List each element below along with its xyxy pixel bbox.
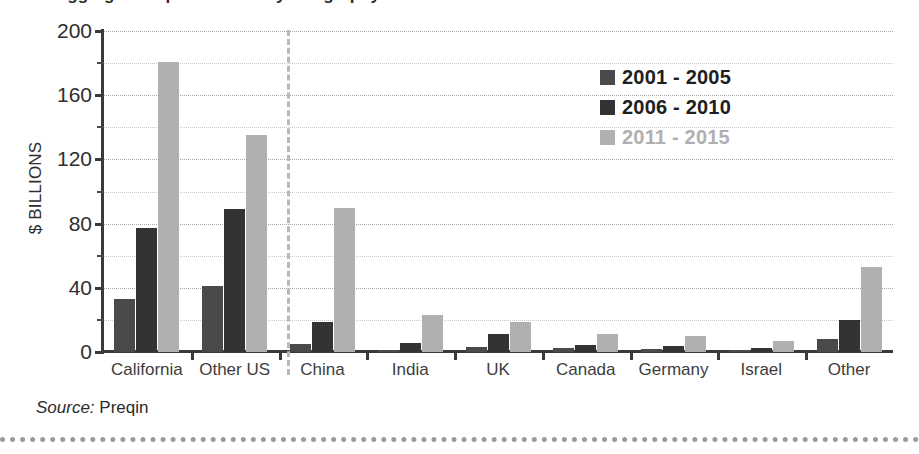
y-axis-tick-minor bbox=[97, 62, 104, 64]
bar bbox=[334, 208, 355, 352]
x-axis-tick bbox=[717, 352, 720, 360]
x-axis-tick bbox=[805, 352, 808, 360]
y-axis-tick-label: 0 bbox=[4, 341, 92, 362]
bar bbox=[685, 336, 706, 352]
x-axis-category-label: Canada bbox=[542, 360, 630, 380]
y-axis-tick-major bbox=[95, 30, 104, 33]
bottom-dotted-rule bbox=[0, 437, 919, 442]
y-axis-tick-major bbox=[95, 94, 104, 97]
bar-group bbox=[114, 31, 179, 352]
y-axis-tick-label: 160 bbox=[4, 84, 92, 105]
y-axis-tick-label: 200 bbox=[4, 20, 92, 41]
x-axis-tick bbox=[366, 352, 369, 360]
y-axis-tick-minor bbox=[97, 255, 104, 257]
bar-group bbox=[202, 31, 267, 352]
x-axis-tick bbox=[630, 352, 633, 360]
bar-group bbox=[378, 31, 443, 352]
bar-chart: 04080120160200 $ BILLIONS 2001 - 2005200… bbox=[0, 0, 919, 400]
x-axis-category-label: UK bbox=[454, 360, 542, 380]
bar bbox=[136, 228, 157, 352]
bar-group bbox=[553, 31, 618, 352]
bar-group bbox=[641, 31, 706, 352]
bar bbox=[510, 322, 531, 352]
x-axis-category-label: California bbox=[103, 360, 191, 380]
y-axis-title: $ BILLIONS bbox=[26, 88, 46, 288]
x-axis-tick bbox=[191, 352, 194, 360]
bar bbox=[422, 315, 443, 352]
y-axis-tick-major bbox=[95, 287, 104, 290]
y-axis-tick-major bbox=[95, 223, 104, 226]
x-axis-tick bbox=[542, 352, 545, 360]
bar bbox=[773, 341, 794, 352]
bar bbox=[158, 62, 179, 353]
y-axis-tick-minor bbox=[97, 126, 104, 128]
bar bbox=[246, 135, 267, 352]
bar bbox=[553, 348, 574, 352]
bar bbox=[488, 334, 509, 352]
x-axis-category-label: Israel bbox=[717, 360, 805, 380]
bar-group bbox=[290, 31, 355, 352]
y-axis-tick-label: 120 bbox=[4, 148, 92, 169]
y-axis-tick-major bbox=[95, 351, 104, 354]
x-axis-category-label: Other US bbox=[191, 360, 279, 380]
y-axis-labels: 04080120160200 bbox=[0, 0, 92, 400]
x-axis-category-label: Other bbox=[805, 360, 893, 380]
bar bbox=[378, 350, 399, 352]
bar bbox=[575, 345, 596, 352]
bar bbox=[729, 350, 750, 352]
bar bbox=[839, 320, 860, 352]
bar bbox=[751, 348, 772, 352]
bar bbox=[597, 334, 618, 352]
bar bbox=[641, 349, 662, 352]
y-axis-tick-label: 40 bbox=[4, 277, 92, 298]
bar bbox=[290, 344, 311, 352]
bar bbox=[466, 347, 487, 352]
y-axis-tick-label: 80 bbox=[4, 213, 92, 234]
bar bbox=[663, 346, 684, 352]
y-axis-tick-major bbox=[95, 158, 104, 161]
bar-group bbox=[817, 31, 882, 352]
bar-group bbox=[729, 31, 794, 352]
source-note: Source: Preqin bbox=[36, 398, 148, 418]
bar bbox=[861, 267, 882, 352]
x-axis-tick bbox=[279, 352, 282, 360]
bar bbox=[202, 286, 223, 352]
source-label: Source: bbox=[36, 398, 95, 417]
y-axis-tick-minor bbox=[97, 319, 104, 321]
x-axis-tick bbox=[454, 352, 457, 360]
x-axis-category-label: India bbox=[366, 360, 454, 380]
bar-group bbox=[466, 31, 531, 352]
bar bbox=[114, 299, 135, 352]
source-value: Preqin bbox=[99, 398, 148, 417]
x-axis-category-label: China bbox=[279, 360, 367, 380]
y-axis-tick-minor bbox=[97, 191, 104, 193]
bar bbox=[400, 343, 421, 352]
x-axis-category-label: Germany bbox=[630, 360, 718, 380]
bar bbox=[312, 322, 333, 352]
bar bbox=[817, 339, 838, 352]
bar bbox=[224, 209, 245, 352]
